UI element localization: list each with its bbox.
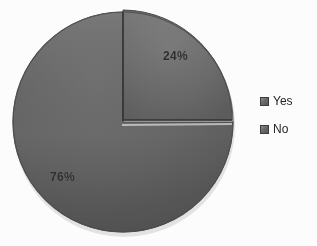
pie-chart-figure: 24% 76% Yes No <box>0 0 317 246</box>
legend-label-no: No <box>273 123 288 135</box>
pie-graphic <box>0 0 250 246</box>
legend-item-yes[interactable]: Yes <box>260 93 315 109</box>
slice-label-yes: 24% <box>163 49 188 63</box>
slice-label-no: 76% <box>50 170 75 184</box>
chart-legend: Yes No <box>260 93 315 149</box>
pie-plot-area: 24% 76% <box>0 0 250 246</box>
pie-divider-highlight <box>122 124 232 125</box>
legend-swatch-no-icon <box>260 125 269 134</box>
legend-item-no[interactable]: No <box>260 121 315 137</box>
legend-swatch-yes-icon <box>260 97 269 106</box>
legend-label-yes: Yes <box>273 95 293 107</box>
